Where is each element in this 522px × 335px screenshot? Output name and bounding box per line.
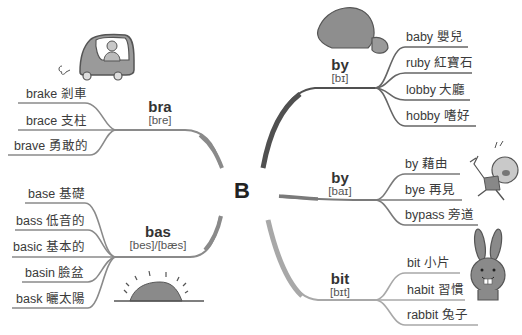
car-icon [59, 35, 134, 80]
hub-by-bai: by [baɪ] [318, 170, 362, 198]
leaf-bass: bass 低音的 [16, 214, 85, 228]
leaf-rabbit: rabbit 兔子 [407, 308, 468, 322]
sunrise-icon [114, 271, 204, 301]
leaf-brave: brave 勇敢的 [14, 139, 88, 153]
rock-icon [318, 8, 388, 54]
leaf-basic: basic 基本的 [13, 240, 85, 254]
leaf-lobby: lobby 大廳 [406, 83, 465, 97]
rabbit-icon [471, 228, 505, 300]
hub-word: by [320, 57, 360, 72]
trunk-bit-thick [268, 220, 302, 296]
hub-word: by [318, 170, 362, 185]
hub-phonetic: [baɪ] [318, 186, 362, 198]
hub-phonetic: [bɪ] [320, 73, 360, 85]
leaf-bypass: bypass 旁道 [405, 208, 474, 222]
hub-bra: bra [bre] [135, 99, 185, 127]
leaf-basin: basin 臉盆 [25, 266, 84, 280]
hub-by-bi: by [bɪ] [320, 57, 360, 85]
hub-word: bra [135, 99, 185, 114]
leaf-hobby: hobby 嗜好 [406, 109, 470, 123]
hub-bas: bas [bes]/[bæs] [118, 224, 198, 252]
leaf-bye: bye 再見 [405, 183, 455, 197]
leaf-bask: bask 曬太陽 [16, 292, 85, 306]
trunk-by2-thick [279, 196, 318, 199]
leaf-base: base 基礎 [28, 187, 85, 201]
hub-phonetic: [bre] [135, 115, 185, 127]
center-letter: B [234, 178, 250, 204]
leaf-habit: habit 習慣 [407, 283, 464, 297]
trunk-by1-thick [263, 94, 300, 168]
hub-phonetic: [bɪt] [320, 287, 360, 299]
leaf-bit: bit 小片 [407, 256, 450, 270]
leaf-by: by 藉由 [405, 157, 448, 171]
running-kid-icon [470, 141, 518, 200]
leaf-brake: brake 剎車 [26, 87, 87, 101]
trunk-by1 [264, 88, 375, 168]
hub-bit: bit [bɪt] [320, 271, 360, 299]
leaf-brace: brace 支柱 [26, 114, 87, 128]
hub-phonetic: [bes]/[bæs] [118, 240, 198, 252]
trunk-bra-thick [200, 135, 222, 168]
trunk-bas-thick [205, 216, 221, 250]
mind-map: B bra [bre] brake 剎車 brace 支柱 brave 勇敢的 … [0, 0, 522, 335]
leaf-ruby: ruby 紅寶石 [406, 56, 473, 70]
trunk-bra [115, 130, 220, 165]
hub-word: bit [320, 271, 360, 286]
hub-word: bas [118, 224, 198, 239]
leaf-baby: baby 嬰兒 [406, 30, 463, 44]
